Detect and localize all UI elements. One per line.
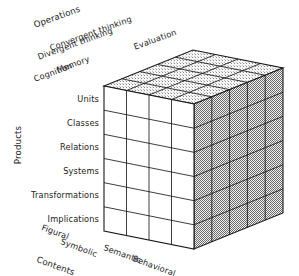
products-axis-label: Products — [13, 115, 23, 175]
products-category-systems: Systems — [63, 166, 99, 176]
cube-front-face — [104, 86, 194, 249]
products-category-transformations: Transformations — [31, 190, 99, 200]
products-category-relations: Relations — [60, 142, 99, 152]
structure-of-intellect-diagram: Operations Cognition Memory Divergent th… — [0, 0, 299, 276]
products-category-units: Units — [77, 94, 99, 104]
products-category-classes: Classes — [67, 118, 99, 128]
products-category-implications: Implications — [48, 214, 99, 224]
